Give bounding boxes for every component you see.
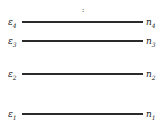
energy-label: ε2: [8, 68, 17, 84]
energy-label: ε1: [8, 108, 17, 124]
level-line: [22, 21, 143, 23]
occupancy-label: n3: [146, 35, 156, 51]
occupancy-label: n2: [146, 68, 156, 84]
energy-level-2: ε2 n2: [0, 68, 167, 80]
level-line: [22, 40, 143, 42]
occupancy-label: n1: [146, 108, 156, 124]
vertical-ellipsis: :: [81, 8, 85, 12]
energy-label: ε4: [8, 16, 17, 32]
level-line: [22, 73, 143, 75]
energy-level-1: ε1 n1: [0, 108, 167, 120]
occupancy-label: n4: [146, 16, 156, 32]
level-line: [22, 113, 143, 115]
energy-label: ε3: [8, 35, 17, 51]
energy-level-4: ε4 n4: [0, 16, 167, 28]
energy-level-3: ε3 n3: [0, 35, 167, 47]
